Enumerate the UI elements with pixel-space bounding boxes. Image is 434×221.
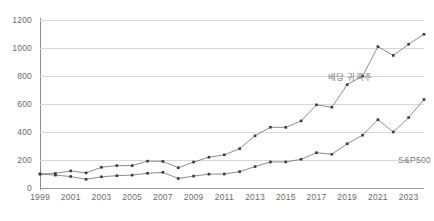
data-point	[131, 164, 134, 167]
y-tick-label-200: 200	[17, 155, 32, 165]
x-tick-label-2013: 2013	[245, 192, 265, 202]
x-tick-label-2015: 2015	[276, 192, 296, 202]
data-point	[85, 172, 88, 175]
data-point	[238, 147, 241, 150]
data-point	[238, 170, 241, 173]
data-point	[392, 54, 395, 57]
data-point	[407, 43, 410, 46]
data-point	[177, 166, 180, 169]
data-point	[315, 104, 318, 107]
data-point	[223, 154, 226, 157]
series-plot	[40, 20, 424, 188]
data-point	[254, 165, 257, 168]
x-tick-label-2007: 2007	[153, 192, 173, 202]
data-point	[116, 164, 119, 167]
data-point	[146, 172, 149, 175]
plot-area: 배당 귀족주 S&P500	[40, 20, 424, 188]
data-point	[331, 153, 334, 156]
data-point	[116, 174, 119, 177]
data-point	[69, 175, 72, 178]
data-point	[208, 156, 211, 159]
data-point	[284, 126, 287, 129]
x-tick-label-2003: 2003	[92, 192, 112, 202]
data-point	[269, 161, 272, 164]
data-point	[146, 160, 149, 163]
data-point	[377, 118, 380, 121]
series-line	[40, 34, 424, 174]
data-point	[254, 134, 257, 137]
data-point	[346, 142, 349, 145]
line-chart: 020040060080010001200 배당 귀족주 S&P500 1999…	[0, 0, 434, 221]
series-annotation-aristocrats: 배당 귀족주	[328, 70, 372, 82]
y-tick-label-1200: 1200	[12, 15, 32, 25]
data-point	[100, 176, 103, 179]
data-point	[192, 175, 195, 178]
data-point	[208, 173, 211, 176]
data-point	[423, 33, 426, 36]
data-point	[69, 170, 72, 173]
series-line	[40, 100, 424, 180]
y-tick-label-1000: 1000	[12, 43, 32, 53]
x-tick-label-2011: 2011	[215, 192, 234, 202]
x-tick-label-2021: 2021	[368, 192, 388, 202]
x-tick-label-2009: 2009	[184, 192, 204, 202]
data-point	[162, 171, 165, 174]
data-point	[162, 160, 165, 163]
data-point	[392, 131, 395, 134]
x-tick-label-2023: 2023	[399, 192, 419, 202]
series-annotation-sp500: S&P500	[398, 155, 431, 165]
data-point	[284, 161, 287, 164]
data-point	[300, 158, 303, 161]
series-aristocrats	[39, 33, 426, 175]
x-tick-label-2005: 2005	[122, 192, 142, 202]
data-point	[361, 134, 364, 137]
x-tick-label-2017: 2017	[307, 192, 327, 202]
y-tick-label-400: 400	[17, 127, 32, 137]
data-point	[39, 173, 42, 176]
x-axis-tick-labels: 1999200120032005200720092011201320152017…	[40, 192, 424, 210]
x-tick-label-2001: 2001	[61, 192, 81, 202]
data-point	[423, 98, 426, 101]
data-point	[377, 45, 380, 48]
data-point	[85, 178, 88, 181]
series-sp500	[39, 98, 426, 180]
data-point	[100, 166, 103, 169]
data-point	[54, 174, 57, 177]
data-point	[223, 173, 226, 176]
x-tick-label-2019: 2019	[337, 192, 357, 202]
data-point	[192, 161, 195, 164]
x-tick-label-1999: 1999	[30, 192, 50, 202]
data-point	[131, 174, 134, 177]
y-tick-label-600: 600	[17, 99, 32, 109]
data-point	[315, 151, 318, 154]
data-point	[346, 83, 349, 86]
data-point	[331, 106, 334, 109]
data-point	[407, 116, 410, 119]
y-axis-tick-labels: 020040060080010001200	[0, 20, 36, 188]
data-point	[300, 120, 303, 123]
data-point	[269, 126, 272, 129]
y-tick-label-800: 800	[17, 71, 32, 81]
data-point	[177, 177, 180, 180]
gridline-0	[40, 188, 424, 189]
